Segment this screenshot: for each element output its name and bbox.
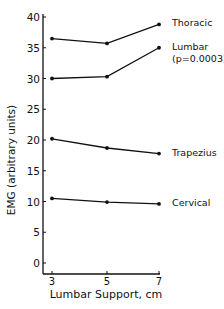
series-group: ThoracicLumbar(p=0.0003)TrapeziusCervica… xyxy=(50,17,224,208)
series-lumbar: Lumbar(p=0.0003) xyxy=(50,41,224,81)
x-axis-label: Lumbar Support, cm xyxy=(50,288,163,301)
y-tick-label: 5 xyxy=(33,226,40,238)
data-point-marker xyxy=(157,22,161,26)
series-line xyxy=(52,48,159,79)
emg-line-chart: 0510152025303540357 ThoracicLumbar(p=0.0… xyxy=(0,0,224,309)
data-point-marker xyxy=(50,37,54,41)
y-axis-label: EMG (arbitrary units) xyxy=(5,105,17,215)
data-point-marker xyxy=(50,77,54,81)
series-line xyxy=(52,139,159,154)
data-point-marker xyxy=(157,46,161,50)
data-point-marker xyxy=(105,146,109,150)
x-tick-label: 7 xyxy=(156,276,162,287)
y-tick-label: 0 xyxy=(33,257,40,269)
series-label: Trapezius xyxy=(171,147,217,158)
data-point-marker xyxy=(105,42,109,46)
y-tick-label: 35 xyxy=(27,42,40,54)
y-tick-label: 25 xyxy=(27,103,40,115)
series-trapezius: Trapezius xyxy=(50,137,217,158)
series-label: Thoracic xyxy=(171,17,212,28)
x-tick-label: 5 xyxy=(104,276,110,287)
y-tick-label: 15 xyxy=(27,165,40,177)
data-point-marker xyxy=(157,152,161,156)
data-point-marker xyxy=(50,137,54,141)
y-tick-label: 30 xyxy=(27,73,40,85)
data-point-marker xyxy=(105,200,109,204)
y-tick-label: 20 xyxy=(27,134,40,146)
data-point-marker xyxy=(50,197,54,201)
y-tick-label: 40 xyxy=(27,11,40,23)
data-point-marker xyxy=(157,202,161,206)
y-tick-label: 10 xyxy=(27,196,40,208)
series-line xyxy=(52,24,159,43)
series-annotation: (p=0.0003) xyxy=(172,53,224,64)
x-tick-label: 3 xyxy=(49,276,55,287)
series-label: Lumbar xyxy=(172,41,208,52)
series-cervical: Cervical xyxy=(50,197,210,208)
series-label: Cervical xyxy=(172,197,210,208)
data-point-marker xyxy=(105,75,109,79)
axes: 0510152025303540357 xyxy=(27,11,163,287)
